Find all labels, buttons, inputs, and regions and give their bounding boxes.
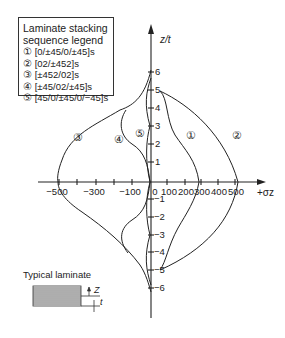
y-tick-label: 2 (155, 138, 160, 149)
y-tick-label: 4 (155, 102, 160, 113)
x-tick-label: 200 (178, 186, 194, 197)
y-tick-label: −4 (154, 246, 165, 257)
x-tick-label: −100 (119, 186, 140, 197)
legend-box: Laminate stacking sequence legend ① [0/±… (18, 17, 114, 96)
curve-1 (160, 91, 199, 270)
laminate-drawing (33, 286, 100, 312)
diagram-stage: 6 5 4 3 2 1 −1 −2 −3 −4 −5 −6 −500 −300 … (0, 0, 285, 338)
curve-label-4: ④ (114, 133, 124, 145)
legend-item-2: ② [02/±452]s (23, 58, 109, 70)
legend-label: [02/±452]s (35, 58, 79, 69)
x-axis-label: +σz (257, 187, 274, 198)
y-tick-label: −5 (154, 264, 165, 275)
legend-item-3: ③ [±452/02]s (23, 69, 109, 81)
x-tick-label: 100 (161, 186, 177, 197)
inset-title: Typical laminate (23, 269, 91, 280)
y-tick-label: 3 (155, 120, 160, 131)
curve-label-5: ⑤ (135, 127, 145, 139)
legend-label: [±45/02/±45]s (35, 81, 92, 92)
legend-title-line1: Laminate stacking (23, 22, 109, 34)
x-tick-label: 500 (228, 186, 244, 197)
legend-marker: ⑤ (23, 92, 32, 103)
y-tick-label: 1 (155, 156, 160, 167)
legend-label: [0/±45/0/±45]s (35, 46, 95, 57)
x-tick-label: −500 (46, 186, 67, 197)
y-tick-label: 6 (155, 66, 160, 77)
y-axis-label: z/t (159, 34, 172, 45)
legend-marker: ③ (23, 69, 32, 80)
curve-label-3: ③ (73, 131, 83, 143)
legend-item-4: ④ [±45/02/±45]s (23, 81, 109, 93)
legend-item-1: ① [0/±45/0/±45]s (23, 46, 109, 58)
legend-item-5: ⑤ [45/0/±45/0/−45]s (23, 92, 109, 104)
legend-title-line2: sequence legend (23, 34, 109, 46)
x-tick-label: 300 (194, 186, 210, 197)
y-tick-label: −3 (154, 229, 165, 240)
y-tick-label: −6 (154, 282, 165, 293)
inset-z-label: Z (93, 285, 100, 295)
x-axis-arrow-icon (257, 179, 266, 185)
curve-label-1: ① (186, 129, 196, 141)
x-tick-label: −300 (83, 186, 104, 197)
y-tick-label: 5 (155, 84, 160, 95)
inset-t-label: t (100, 297, 103, 307)
legend-marker: ① (23, 46, 32, 57)
legend-marker: ② (23, 58, 32, 69)
y-tick-label: −2 (154, 211, 165, 222)
legend-label: [45/0/±45/0/−45]s (35, 92, 109, 103)
y-axis-arrow-icon (148, 24, 154, 34)
x-tick-label: 400 (211, 186, 227, 197)
legend-marker: ④ (23, 81, 32, 92)
x-tick-label: 0 (152, 186, 157, 197)
curve-label-2: ② (232, 129, 242, 141)
legend-label: [±452/02]s (35, 69, 79, 80)
